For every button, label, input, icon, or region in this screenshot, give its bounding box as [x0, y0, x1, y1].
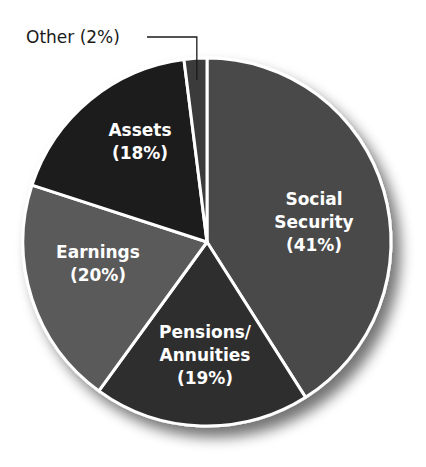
slice-label-other: Other (2%) [26, 27, 120, 47]
slice-label-social-security: SocialSecurity(41%) [274, 189, 353, 255]
pie-chart: SocialSecurity(41%)Pensions/Annuities(19… [0, 0, 426, 467]
